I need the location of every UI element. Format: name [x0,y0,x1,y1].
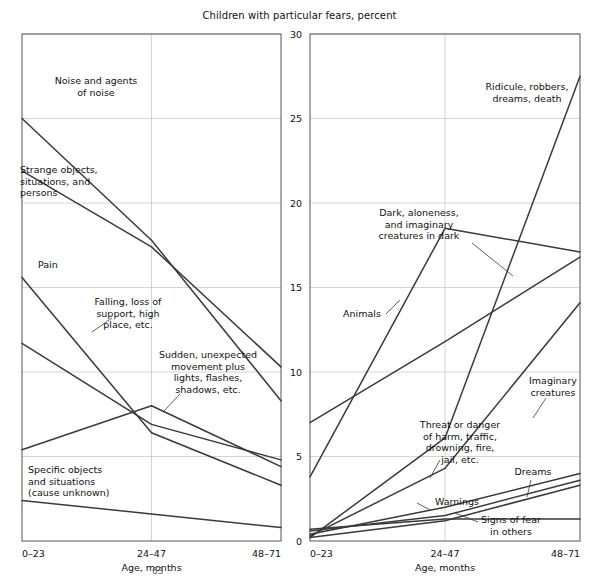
annotation-label-animals-line0: Animals [343,308,381,319]
annotation-label-specific-objects-line0: Specific objects [28,464,102,475]
y-axis-tick-labels: 051015202530 [290,29,302,547]
annotation-label-falling-line2: place, etc. [103,319,152,330]
fears-line-chart: 051015202530 0–2324–4748–710–2324–4748–7… [0,0,599,577]
annotation-label-falling-line0: Falling, loss of [95,296,163,307]
page-number: 63 [152,566,163,576]
annotation-animals: Animals [343,308,381,319]
x-tick-right-panel-1: 24–47 [431,548,460,559]
leader-lines-layer [92,243,546,522]
y-tick-25: 25 [290,113,302,124]
annotation-pain: Pain [38,259,58,270]
annotation-label-pain-line0: Pain [38,259,58,270]
y-tick-5: 5 [296,451,302,462]
annotation-label-threat-danger-line2: drowning, fire, [426,442,495,453]
y-tick-15: 15 [290,282,302,293]
annotation-label-specific-objects-line2: (cause unknown) [28,487,109,498]
annotation-noise: Noise and agentsof noise [55,75,138,98]
annotation-label-threat-danger-line0: Threat or danger [419,419,500,430]
x-tick-right-panel-0: 0–23 [310,548,333,559]
annotation-label-strange-objects-line1: situations, and [20,176,90,187]
annotation-dark-aloneness: Dark, aloneness,and imaginarycreatures i… [379,207,460,241]
x-tick-left-panel-2: 48–71 [252,548,281,559]
annotation-falling: Falling, loss ofsupport, highplace, etc. [95,296,163,330]
annotation-label-signs-of-fear-line0: Signs of fear [481,514,541,525]
annotation-ridicule: Ridicule, robbers,dreams, death [486,81,569,104]
annotation-label-imaginary-creatures-line0: Imaginary [529,375,577,386]
annotation-label-dark-aloneness-line1: and imaginary [385,219,454,230]
x-axis-title-right-panel: Age, months [415,562,475,573]
annotation-dreams: Dreams [515,466,552,477]
annotation-label-signs-of-fear-line1: in others [490,526,532,537]
annotation-label-warnings-line0: Warnings [435,496,479,507]
leader-line-sudden-movement-0 [163,394,180,412]
annotation-label-dark-aloneness-line2: creatures in dark [379,230,460,241]
x-tick-left-panel-0: 0–23 [22,548,45,559]
annotation-label-dreams-line0: Dreams [515,466,552,477]
annotation-label-strange-objects-line2: persons [20,187,58,198]
annotation-label-sudden-movement-line2: lights, flashes, [174,372,243,383]
leader-line-dreams-0 [527,480,531,497]
leader-line-warnings-0 [417,503,430,510]
annotation-label-imaginary-creatures-line1: creatures [531,387,576,398]
leader-line-imaginary-creatures-0 [533,398,546,418]
leader-line-animals-0 [386,300,400,314]
figure-container: Children with particular fears, percent … [0,0,599,577]
annotation-label-noise-line0: Noise and agents [55,75,138,86]
annotation-label-strange-objects-line0: Strange objects, [20,164,98,175]
x-tick-right-panel-2: 48–71 [551,548,580,559]
annotation-specific-objects: Specific objectsand situations(cause unk… [28,464,109,498]
annotation-threat-danger: Threat or dangerof harm, traffic,drownin… [419,419,500,465]
axis-titles: Age, monthsAge, months [121,562,475,573]
annotation-label-sudden-movement-line3: shadows, etc. [175,384,240,395]
annotation-label-threat-danger-line3: jail, etc. [440,454,479,465]
annotation-label-noise-line1: of noise [77,87,115,98]
annotation-label-sudden-movement-line0: Sudden, unexpected [159,349,257,360]
y-tick-0: 0 [296,536,302,547]
x-axis-tick-labels: 0–2324–4748–710–2324–4748–71 [22,548,580,559]
annotation-label-threat-danger-line1: of harm, traffic, [423,431,497,442]
annotation-imaginary-creatures: Imaginarycreatures [529,375,577,398]
leader-line-dark-aloneness-0 [472,243,513,276]
annotation-sudden-movement: Sudden, unexpectedmovement pluslights, f… [159,349,257,395]
annotation-label-sudden-movement-line1: movement plus [171,361,245,372]
y-tick-20: 20 [290,198,302,209]
x-tick-left-panel-1: 24–47 [137,548,166,559]
annotation-label-ridicule-line0: Ridicule, robbers, [486,81,569,92]
annotation-warnings: Warnings [435,496,479,507]
annotation-label-dark-aloneness-line0: Dark, aloneness, [379,207,459,218]
y-tick-30: 30 [290,29,302,40]
annotation-label-specific-objects-line1: and situations [28,476,95,487]
annotation-label-falling-line1: support, high [96,308,159,319]
annotation-signs-of-fear: Signs of fearin others [481,514,541,537]
leader-line-threat-danger-0 [430,460,440,478]
y-tick-10: 10 [290,367,302,378]
annotation-label-ridicule-line1: dreams, death [492,93,561,104]
